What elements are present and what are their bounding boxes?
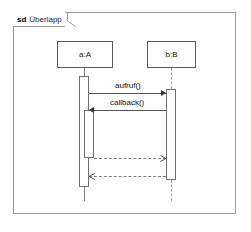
lifeline-label-b: b:B xyxy=(165,50,177,59)
frame-tab-corner-cut xyxy=(67,12,76,27)
message-label-aufruf: aufruf() xyxy=(115,81,141,90)
return-line-to-a xyxy=(89,176,166,177)
lifeline-line-b-top xyxy=(171,68,172,89)
lifeline-line-b-bottom xyxy=(171,180,172,201)
lifeline-line-a-bottom xyxy=(84,187,85,201)
frame-label-tab: sd Überlapp xyxy=(13,12,65,27)
return-arrowhead-to-a xyxy=(88,173,94,180)
lifeline-label-a: a:A xyxy=(79,50,91,59)
activation-bar-a-inner[interactable] xyxy=(84,110,94,158)
message-arrowhead-aufruf xyxy=(161,90,166,96)
lifeline-head-a[interactable]: a:A xyxy=(57,41,113,68)
lifeline-line-a-top xyxy=(84,68,85,76)
frame-name-label: Überlapp xyxy=(29,16,61,24)
message-arrowhead-callback xyxy=(89,107,94,113)
message-line-aufruf xyxy=(89,93,166,94)
interaction-frame xyxy=(13,12,236,214)
message-label-callback: callback() xyxy=(110,98,144,107)
return-line-to-b xyxy=(94,158,166,159)
message-line-callback xyxy=(89,110,166,111)
sequence-diagram-canvas: sd Überlapp a:A b:B aufruf() callback() xyxy=(0,0,251,232)
lifeline-head-b[interactable]: b:B xyxy=(147,41,196,68)
frame-kind-label: sd xyxy=(17,16,26,24)
activation-bar-b[interactable] xyxy=(166,89,176,180)
return-arrowhead-to-b xyxy=(160,155,166,162)
tab-bottom-border xyxy=(13,26,65,27)
